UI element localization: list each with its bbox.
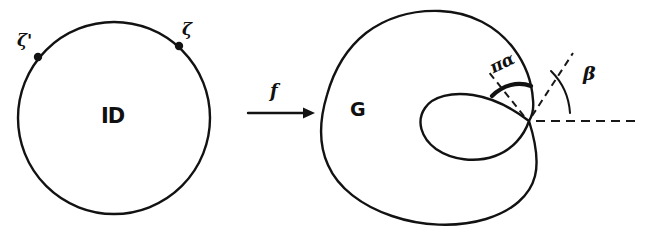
label-inclination-beta: β (583, 64, 596, 83)
figure-canvas: ζ' ζ ID f G πα β (0, 0, 646, 234)
diagram-svg (0, 0, 646, 234)
zeta-prime-point (34, 53, 42, 61)
label-map-f: f (270, 82, 278, 100)
beta-angle-arc (551, 71, 570, 113)
region-g-inner-loop (421, 94, 529, 160)
label-zeta: ζ (182, 21, 192, 38)
zeta-point (175, 42, 183, 50)
label-zeta-prime: ζ' (17, 32, 32, 49)
cusp-angle-arc (492, 84, 531, 96)
dashed-tangent-ray (532, 53, 573, 116)
map-arrow-group (248, 108, 315, 119)
arrow-head (303, 108, 315, 119)
label-unit-disk: ID (101, 106, 124, 127)
label-region-g: G (350, 100, 366, 119)
